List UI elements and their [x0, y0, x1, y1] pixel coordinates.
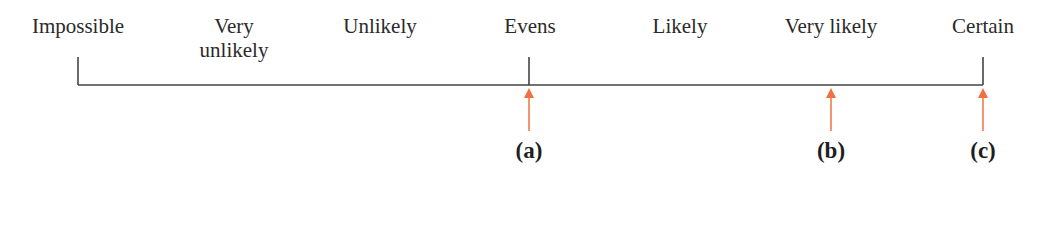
marker-c-label: (c)	[970, 138, 996, 164]
marker-b-label: (b)	[817, 138, 845, 164]
marker-a-label: (a)	[516, 138, 543, 164]
scale-line	[78, 57, 983, 85]
arrow-a-icon	[524, 88, 534, 131]
arrow-c-icon	[978, 88, 988, 131]
arrow-b-icon	[826, 88, 836, 131]
